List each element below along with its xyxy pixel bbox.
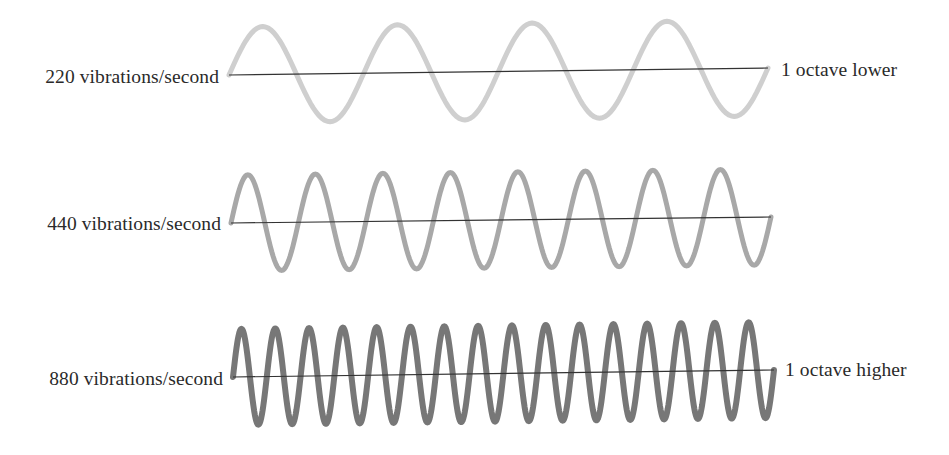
frequency-label-880: 880 vibrations/second — [49, 369, 223, 389]
frequency-label-220: 220 vibrations/second — [45, 67, 219, 87]
octave-label-lower: 1 octave lower — [781, 60, 897, 80]
wave-row-220 — [229, 21, 768, 121]
wave-row-880 — [233, 322, 774, 424]
frequency-label-440: 440 vibrations/second — [47, 214, 221, 234]
octave-label-higher: 1 octave higher — [785, 360, 907, 380]
wave-row-440 — [231, 170, 771, 271]
